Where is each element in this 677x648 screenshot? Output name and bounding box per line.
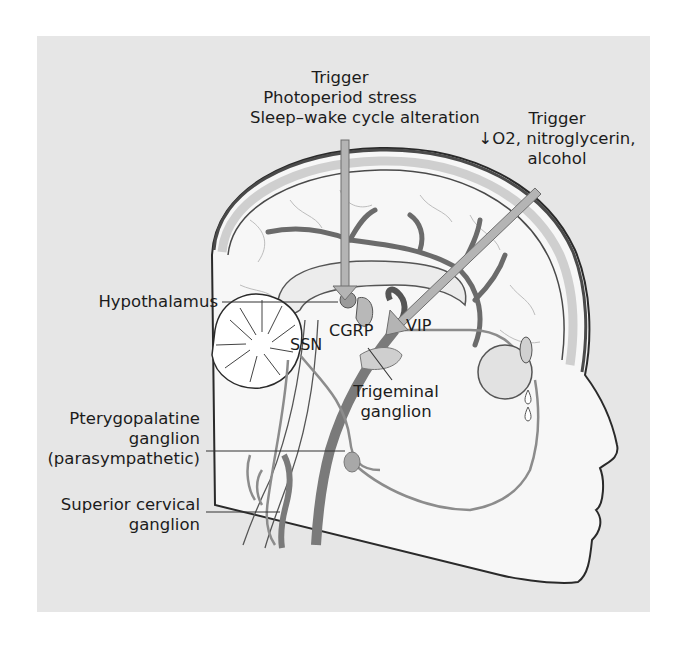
superior-cervical-line1: Superior cervical — [40, 495, 200, 515]
lacrimal-gland — [520, 337, 532, 363]
trigeminal-line1: Trigeminal — [346, 382, 446, 402]
hypothalamus-label: Hypothalamus — [60, 292, 218, 312]
ssn-label: SSN — [290, 335, 322, 354]
trigger-right-line2: ↓O2, nitroglycerin, — [472, 129, 642, 149]
trigeminal-ganglion-label: Trigeminal ganglion — [346, 382, 446, 422]
trigger-top-label: Trigger Photoperiod stress Sleep–wake cy… — [250, 68, 430, 128]
trigger-right-label: Trigger ↓O2, nitroglycerin, alcohol — [472, 109, 642, 169]
trigeminal-line2: ganglion — [346, 402, 446, 422]
trigger-right-line3: alcohol — [472, 149, 642, 169]
pterygopalatine-line1: Pterygopalatine — [40, 409, 200, 429]
superior-cervical-line2: ganglion — [40, 515, 200, 535]
trigger-right-line1: Trigger — [472, 109, 642, 129]
pterygopalatine-line2: ganglion — [40, 429, 200, 449]
cerebellum — [212, 294, 302, 388]
trigger-top-line2: Photoperiod stress — [250, 88, 430, 108]
cgrp-label: CGRP — [329, 321, 373, 340]
trigger-top-line1: Trigger — [250, 68, 430, 88]
pterygopalatine-line3: (parasympathetic) — [40, 449, 200, 469]
pterygopalatine-ganglion — [344, 452, 360, 472]
superior-cervical-label: Superior cervical ganglion — [40, 495, 200, 535]
pterygopalatine-label: Pterygopalatine ganglion (parasympatheti… — [40, 409, 200, 469]
trigger-top-line3: Sleep–wake cycle alteration — [250, 108, 430, 128]
vip-label: VIP — [406, 316, 431, 335]
